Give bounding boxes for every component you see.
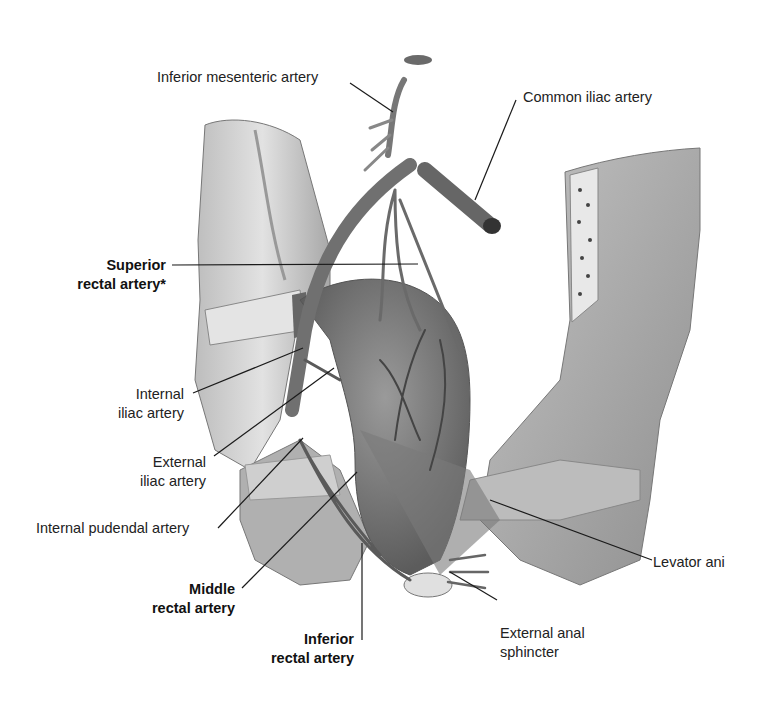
label-line: rectal artery* xyxy=(60,275,166,294)
label-line: rectal artery xyxy=(130,599,235,618)
label-line: sphincter xyxy=(500,643,585,662)
label-line: iliac artery xyxy=(90,404,184,423)
label-levator-ani: Levator ani xyxy=(653,553,725,572)
label-line: iliac artery xyxy=(110,472,206,491)
label-internal-pudendal-artery: Internal pudendal artery xyxy=(36,519,189,538)
left-hip-bone xyxy=(240,440,370,585)
label-external-iliac-artery: External iliac artery xyxy=(110,453,206,491)
label-superior-rectal-artery: Superior rectal artery* xyxy=(60,256,166,294)
label-line: Internal xyxy=(90,385,184,404)
anatomy-illustration xyxy=(0,0,780,703)
leader-external-anal-sphincter xyxy=(450,572,497,600)
leader-common-iliac xyxy=(475,100,516,200)
label-middle-rectal-artery: Middle rectal artery xyxy=(130,580,235,618)
label-external-anal-sphincter: External anal sphincter xyxy=(500,624,585,662)
label-inferior-mesenteric-artery: Inferior mesenteric artery xyxy=(157,68,318,87)
label-line: Middle xyxy=(130,580,235,599)
label-common-iliac-artery: Common iliac artery xyxy=(523,88,652,107)
label-internal-iliac-artery: Internal iliac artery xyxy=(90,385,184,423)
label-line: External anal xyxy=(500,624,585,643)
label-line: External xyxy=(110,453,206,472)
anal-canal xyxy=(404,573,452,597)
leader-inferior-mesenteric xyxy=(350,83,393,112)
label-line: Superior xyxy=(60,256,166,275)
label-line: Inferior xyxy=(250,630,354,649)
label-inferior-rectal-artery: Inferior rectal artery xyxy=(250,630,354,668)
label-line: rectal artery xyxy=(250,649,354,668)
